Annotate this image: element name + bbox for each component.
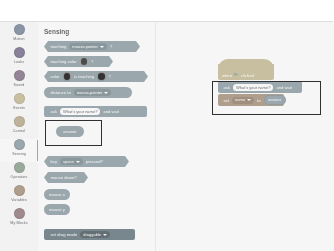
control-dot-icon [14, 116, 25, 127]
block-label: mouse down? [51, 175, 77, 180]
block-label: color [51, 74, 60, 79]
sensing-dot-icon [14, 139, 25, 150]
color-swatch-input-b[interactable] [97, 72, 106, 81]
events-dot-icon [14, 93, 25, 104]
scratch-editor: Motion Looks Sound Events Control Sensin… [0, 22, 333, 251]
sidebar-item-label: Events [0, 105, 38, 111]
palette-category-title: Sensing [44, 28, 69, 35]
script-canvas[interactable]: when clicked ask What's your name? and w… [155, 22, 334, 251]
green-flag-icon [234, 73, 239, 78]
sidebar-item-label: Control [0, 128, 38, 134]
sidebar-item-events[interactable]: Events [0, 93, 38, 116]
sidebar-item-control[interactable]: Control [0, 116, 38, 139]
block-mouse-down[interactable]: mouse down? [44, 172, 88, 183]
chevron-down-icon [100, 46, 104, 48]
chevron-down-icon [104, 92, 108, 94]
dropdown-value: draggable [83, 231, 101, 238]
sidebar-item-label: Looks [0, 59, 38, 65]
block-label: touching color [51, 59, 77, 64]
block-label: mouse x [49, 192, 65, 197]
text-input[interactable]: What's your name? [60, 108, 100, 115]
dropdown-input[interactable]: draggable [80, 231, 110, 238]
block-label: answer [63, 129, 77, 134]
operators-dot-icon [14, 162, 25, 173]
sound-dot-icon [14, 70, 25, 81]
sidebar-item-sound[interactable]: Sound [0, 70, 38, 93]
block-distance-to[interactable]: distance to mouse-pointer [44, 87, 132, 98]
block-label: touching [51, 44, 67, 49]
block-mouse-y[interactable]: mouse y [44, 204, 70, 215]
block-key-pressed[interactable]: key space pressed? [44, 156, 129, 167]
block-touching-color[interactable]: touching color ? [44, 56, 113, 67]
block-label-suffix: clicked [241, 73, 254, 78]
color-swatch-input-a[interactable] [63, 72, 72, 81]
block-touching-mouse-pointer[interactable]: touching mouse-pointer ? [44, 41, 140, 52]
dropdown-value: mouse-pointer [77, 89, 103, 96]
sidebar-item-label: Sound [0, 82, 38, 88]
color-swatch-input[interactable] [80, 57, 89, 66]
block-label-suffix: pressed? [86, 159, 103, 164]
my-blocks-dot-icon [14, 208, 25, 219]
sidebar-item-label: Operators [0, 174, 38, 180]
chevron-down-icon [103, 234, 107, 236]
sidebar-item-motion[interactable]: Motion [0, 24, 38, 47]
block-label: when [222, 73, 232, 78]
sidebar-item-looks[interactable]: Looks [0, 47, 38, 70]
sidebar-item-operators[interactable]: Operators [0, 162, 38, 185]
block-label-mid: is touching [74, 74, 94, 79]
block-label: key [51, 159, 58, 164]
block-label-suffix: and wait [103, 109, 119, 114]
dropdown-value: mouse-pointer [72, 43, 98, 50]
block-label: ask [51, 109, 58, 114]
block-label-suffix: ? [91, 59, 93, 64]
chevron-down-icon [76, 161, 80, 163]
dropdown-input[interactable]: mouse-pointer [69, 43, 107, 50]
block-label-suffix: ? [110, 44, 112, 49]
block-label: distance to [51, 90, 71, 95]
dropdown-value: space [63, 158, 74, 165]
category-sidebar: Motion Looks Sound Events Control Sensin… [0, 22, 39, 251]
block-label: mouse y [49, 207, 65, 212]
motion-dot-icon [14, 24, 25, 35]
block-ask-and-wait[interactable]: ask What's your name? and wait [44, 106, 147, 117]
sidebar-item-variables[interactable]: Variables [0, 185, 38, 208]
dropdown-input[interactable]: mouse-pointer [74, 89, 112, 96]
sidebar-item-label: Sensing [0, 151, 38, 157]
block-mouse-x[interactable]: mouse x [44, 189, 70, 200]
variables-dot-icon [14, 185, 25, 196]
block-set-drag-mode[interactable]: set drag mode draggable [44, 229, 135, 240]
block-color-is-touching[interactable]: color is touching ? [44, 71, 148, 82]
sidebar-item-label: My Blocks [0, 220, 38, 226]
dropdown-input[interactable]: space [60, 158, 83, 165]
sidebar-item-my-blocks[interactable]: My Blocks [0, 208, 38, 231]
block-label-suffix: ? [109, 74, 111, 79]
block-palette[interactable]: Sensing touching mouse-pointer ? touchin… [38, 22, 155, 251]
sidebar-item-label: Motion [0, 36, 38, 42]
block-label: set drag mode [51, 232, 78, 237]
sidebar-item-label: Variables [0, 197, 38, 203]
looks-dot-icon [14, 47, 25, 58]
workspace-highlight-box [212, 81, 321, 115]
sidebar-item-sensing[interactable]: Sensing [0, 139, 38, 162]
block-when-flag-clicked[interactable]: when clicked [218, 64, 274, 80]
block-answer[interactable]: answer [56, 126, 84, 137]
